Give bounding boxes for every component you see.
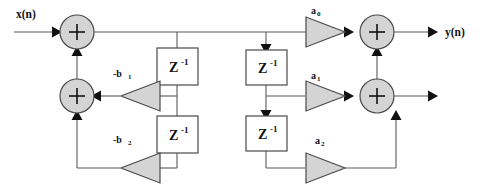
amplifier-triangle[interactable] xyxy=(306,81,345,111)
amplifier-triangle[interactable] xyxy=(306,17,345,47)
delay-block-feedback-1[interactable]: Z -1 xyxy=(157,48,198,85)
delay-block-feedforward-2[interactable]: Z -1 xyxy=(246,116,287,151)
signal-flow-diagram-canvas: Z -1 Z -1 Z -1 Z -1 -b 1 -b 2 xyxy=(0,0,484,187)
arrowhead-a2-into-sum xyxy=(391,110,402,120)
amplifier-gain-b2[interactable]: -b 2 xyxy=(113,134,160,183)
amplifier-triangle[interactable] xyxy=(121,81,160,111)
amplifier-subscript: 1 xyxy=(317,75,321,83)
arrowhead-output-y xyxy=(428,27,438,38)
amplifier-subscript: 2 xyxy=(321,140,325,148)
amplifier-gain-a2[interactable]: a 2 xyxy=(306,135,345,183)
amplifier-gain-b1[interactable]: -b 1 xyxy=(113,68,160,111)
amplifier-label: a xyxy=(311,70,316,81)
delay-label: Z xyxy=(169,60,178,75)
delay-label: Z xyxy=(258,127,267,142)
summer-sum-top-right[interactable] xyxy=(360,15,394,49)
summer-sum-bottom-right[interactable] xyxy=(360,79,394,113)
output-signal-label: y(n) xyxy=(445,26,465,39)
amplifier-gain-a1[interactable]: a 1 xyxy=(306,70,345,111)
amplifier-label: a xyxy=(311,5,316,16)
summer-sum-bottom-left[interactable] xyxy=(60,79,94,113)
amplifier-triangle[interactable] xyxy=(121,153,160,183)
delay-exponent: -1 xyxy=(270,124,278,134)
amplifier-label: -b xyxy=(113,68,122,79)
amplifier-label: a xyxy=(315,135,320,146)
delay-label: Z xyxy=(169,128,178,143)
delay-block-feedforward-1[interactable]: Z -1 xyxy=(246,50,287,85)
delay-label: Z xyxy=(258,61,267,76)
amplifier-subscript: 0 xyxy=(317,10,321,18)
amplifier-triangle[interactable] xyxy=(306,153,345,183)
amplifier-subscript: 2 xyxy=(128,139,132,147)
delay-exponent: -1 xyxy=(181,125,189,135)
signal-flow-diagram: Z -1 Z -1 Z -1 Z -1 -b 1 -b 2 xyxy=(0,0,484,187)
arrowhead-output-branch xyxy=(428,91,438,102)
amplifier-gain-a0[interactable]: a 0 xyxy=(306,5,345,47)
amplifier-label: -b xyxy=(113,134,122,145)
delay-block-feedback-2[interactable]: Z -1 xyxy=(157,116,198,153)
input-signal-label: x(n) xyxy=(16,8,36,21)
delay-exponent: -1 xyxy=(181,57,189,67)
amplifier-subscript: 1 xyxy=(128,73,132,81)
delay-exponent: -1 xyxy=(270,58,278,68)
summer-sum-top-left[interactable] xyxy=(60,15,94,49)
